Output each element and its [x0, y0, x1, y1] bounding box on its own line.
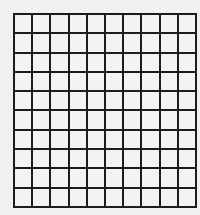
grid-cell: [106, 34, 122, 51]
grid-cell: [33, 54, 49, 71]
grid-cell: [179, 131, 195, 148]
grid-cell: [15, 73, 31, 90]
grid-cell: [142, 111, 158, 128]
grid-cell: [179, 34, 195, 51]
grid-cell: [70, 111, 86, 128]
grid-cell: [106, 15, 122, 32]
grid-cell: [142, 150, 158, 167]
grid-cell: [124, 34, 140, 51]
grid-cell: [70, 34, 86, 51]
grid-cell: [15, 111, 31, 128]
grid-cell: [161, 189, 177, 206]
grid-cell: [15, 150, 31, 167]
grid-cell: [142, 189, 158, 206]
grid-cell: [106, 189, 122, 206]
grid-cell: [51, 34, 67, 51]
grid-cell: [179, 15, 195, 32]
grid-cell: [124, 15, 140, 32]
grid-cell: [33, 111, 49, 128]
grid-cell: [161, 131, 177, 148]
grid-cell: [124, 111, 140, 128]
grid-cell: [51, 111, 67, 128]
grid-cell: [15, 189, 31, 206]
grid-cell: [179, 92, 195, 109]
grid-cell: [70, 189, 86, 206]
grid-cell: [88, 169, 104, 186]
grid-cell: [124, 131, 140, 148]
grid-cell: [106, 131, 122, 148]
grid-cell: [88, 73, 104, 90]
grid-cell: [70, 150, 86, 167]
grid-cell: [88, 54, 104, 71]
grid-cell: [15, 15, 31, 32]
grid-cell: [51, 189, 67, 206]
grid-cell: [51, 92, 67, 109]
grid-cell: [70, 54, 86, 71]
grid-cell: [106, 150, 122, 167]
grid-cell: [15, 54, 31, 71]
grid-cell: [161, 15, 177, 32]
grid-cell: [88, 92, 104, 109]
grid-cell: [161, 34, 177, 51]
grid-cell: [142, 169, 158, 186]
grid-cell: [51, 131, 67, 148]
grid-cell: [142, 34, 158, 51]
grid-cell: [161, 111, 177, 128]
grid-cell: [70, 73, 86, 90]
grid-cell: [106, 54, 122, 71]
grid-cell: [106, 73, 122, 90]
grid-cell: [70, 15, 86, 32]
grid-cell: [88, 34, 104, 51]
grid-cell: [51, 150, 67, 167]
grid-cell: [106, 92, 122, 109]
grid-cell: [88, 111, 104, 128]
grid-cell: [70, 169, 86, 186]
grid-cell: [124, 54, 140, 71]
grid-cell: [33, 92, 49, 109]
grid-cell: [51, 15, 67, 32]
grid-cell: [15, 131, 31, 148]
grid-cell: [142, 15, 158, 32]
grid-cell: [179, 189, 195, 206]
grid-cell: [106, 169, 122, 186]
grid-cell: [70, 131, 86, 148]
grid-cell: [51, 73, 67, 90]
grid-cell: [33, 169, 49, 186]
grid-cell: [51, 54, 67, 71]
grid-cell: [33, 150, 49, 167]
grid-cell: [161, 150, 177, 167]
grid-cell: [33, 73, 49, 90]
grid-cell: [179, 150, 195, 167]
grid-cell: [15, 92, 31, 109]
grid-cell: [124, 92, 140, 109]
grid-cell: [142, 54, 158, 71]
grid-cell: [161, 92, 177, 109]
grid-cell: [88, 150, 104, 167]
grid-cell: [124, 73, 140, 90]
grid-cell: [161, 73, 177, 90]
grid-cell: [179, 73, 195, 90]
grid-cell: [88, 131, 104, 148]
grid-cell: [142, 73, 158, 90]
grid-cell: [161, 169, 177, 186]
grid-cell: [124, 169, 140, 186]
grid-cell: [33, 131, 49, 148]
grid-cell: [88, 189, 104, 206]
grid-cell: [179, 169, 195, 186]
square-grid: [13, 13, 197, 208]
grid-cell: [124, 189, 140, 206]
grid-cell: [179, 111, 195, 128]
grid-cell: [142, 92, 158, 109]
grid-cell: [161, 54, 177, 71]
grid-cell: [88, 15, 104, 32]
grid-cell: [51, 169, 67, 186]
grid-cell: [33, 189, 49, 206]
grid-cell: [142, 131, 158, 148]
grid-cell: [179, 54, 195, 71]
grid-cell: [15, 169, 31, 186]
grid-cell: [70, 92, 86, 109]
grid-cell: [15, 34, 31, 51]
grid-cell: [124, 150, 140, 167]
grid-cell: [33, 34, 49, 51]
grid-cell: [106, 111, 122, 128]
